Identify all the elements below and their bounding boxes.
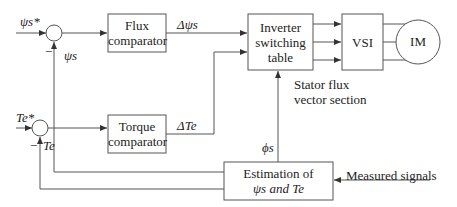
sector-note: Stator flux vector section <box>294 77 367 107</box>
flux-comparator-label: Flux comparator <box>108 18 166 48</box>
flux-err-label: Δψs <box>177 17 198 32</box>
estimation-label: Estimation of ψs and Te <box>224 166 333 196</box>
minus-flux-label: − <box>45 44 52 59</box>
torque-ref-label: Te* <box>16 110 34 125</box>
torque-fb-label: Te <box>43 138 55 153</box>
flux-ref-label: ψs* <box>20 14 40 29</box>
torque-summing-junction <box>32 120 48 136</box>
torque-err-label: ΔTe <box>177 118 196 133</box>
measured-signals-label: Measured signals <box>346 168 437 183</box>
motor-label: IM <box>396 34 440 49</box>
dtc-block-diagram: ψs* − ψs Flux comparator Δψs Te* − Te To… <box>0 0 457 207</box>
flux-fb-label: ψs <box>64 48 77 63</box>
vsi-label: VSI <box>342 35 383 50</box>
inverter-label: Inverter switching table <box>248 20 313 65</box>
minus-torque-label: − <box>30 138 37 153</box>
sector-label: ϕs <box>262 140 274 155</box>
torque-comparator-label: Torque comparator <box>108 119 166 149</box>
flux-summing-junction <box>46 25 62 41</box>
